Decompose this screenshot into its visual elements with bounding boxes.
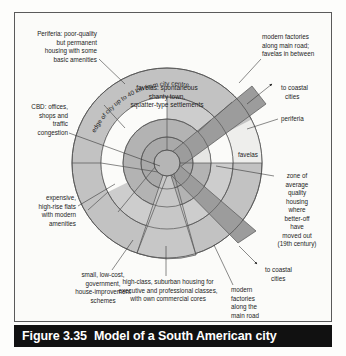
label-periferia-right: periferia: [281, 115, 304, 123]
label-periferia-top-left: Periferia: poor-quality but permanent ho…: [37, 30, 98, 63]
figure-container: edge of city up to 40 km from city centr…: [0, 0, 346, 356]
label-zoa-l5: where: [287, 206, 306, 213]
label-zoa-l1: zone of: [287, 172, 308, 179]
figure-number: Figure 3.35: [22, 329, 87, 343]
label-cbd-l4: congestion: [38, 129, 69, 137]
label-zoa-l2: average: [286, 181, 309, 189]
label-slc-l4: schemes: [90, 297, 115, 304]
label-slc-l1: small, low-cost,: [81, 271, 124, 278]
label-ehf-l4: amenities: [49, 220, 76, 227]
leader-modern-factories-bottom: [214, 245, 233, 285]
label-coastal-bot-l1: to coastal: [265, 266, 292, 273]
label-modern-factories-top: modern factories along main road; favela…: [262, 33, 315, 57]
label-hcs-l1: high-class, suburban housing for: [122, 278, 213, 286]
label-zoa-l8: moved out: [282, 232, 312, 239]
label-cbd: CBD: offices, shops and traffic congesti…: [31, 103, 68, 137]
label-cbd-l3: traffic: [53, 120, 68, 127]
label-favelas-inner-l3: squatter-type settlements: [131, 101, 205, 109]
label-zone-of-average-quality: zone of average quality housing where be…: [278, 172, 317, 248]
label-hcs-l2: executive and professional classes,: [118, 287, 217, 295]
label-high-class-suburban: high-class, suburban housing for executi…: [118, 278, 217, 302]
label-ehf-l1: expensive,: [46, 194, 76, 202]
label-ehf-l3: with modern: [41, 211, 77, 218]
leader-periferia-top-left: [99, 59, 125, 84]
label-to-coastal-cities-top: to coastal cities: [281, 84, 308, 100]
arrow-to-coastal-cities-bottom: [239, 246, 257, 264]
label-slc-l2: government,: [85, 280, 120, 288]
label-hcs-l3: with own commercial cores: [129, 295, 206, 302]
label-favelas-right: favelas: [238, 151, 258, 158]
label-mf-bot-l3: along the: [231, 303, 257, 311]
label-zoa-l6: better-off: [284, 215, 309, 222]
label-mf-bot-l1: modern: [231, 286, 253, 293]
label-zoa-l4: housing: [286, 198, 309, 206]
label-mf-top-l1: modern factories: [262, 33, 309, 40]
label-cbd-l1: CBD: offices,: [31, 103, 68, 110]
label-coastal-top-l2: cities: [285, 93, 299, 100]
label-mf-bot-l2: factories: [231, 295, 255, 302]
label-zoa-l3: quality: [288, 189, 307, 197]
label-cbd-l2: shops and: [39, 112, 69, 120]
south-american-city-model-diagram: edge of city up to 40 km from city centr…: [0, 0, 346, 356]
label-zoa-l7: have: [290, 223, 304, 230]
label-ehf-l2: high-rise flats: [39, 203, 76, 211]
figure-caption-bar: Figure 3.35 Model of a South American ci…: [14, 325, 332, 347]
label-periferia-l3: housing with some: [45, 47, 98, 55]
label-expensive-high-rise-flats: expensive, high-rise flats with modern a…: [39, 194, 77, 227]
figure-title: Model of a South American city: [94, 329, 277, 343]
label-periferia-l2: but permanent: [56, 39, 97, 47]
label-mf-top-l3: favelas in between: [262, 50, 315, 57]
label-mf-bot-l4: main road: [231, 312, 259, 319]
label-coastal-bot-l2: cities: [271, 275, 285, 282]
label-coastal-top-l1: to coastal: [281, 84, 308, 91]
label-mf-top-l2: along main road;: [262, 42, 309, 50]
label-periferia-l1: Periferia: poor-quality: [37, 30, 98, 38]
label-to-coastal-cities-bottom: to coastal cities: [265, 266, 292, 282]
leader-modern-factories-top: [239, 59, 261, 83]
label-periferia-l4: basic amenities: [54, 56, 97, 63]
label-favelas-inner-l1: favelas: spontaneous: [136, 84, 198, 92]
label-zoa-l9: (19th century): [278, 240, 317, 248]
label-modern-factories-bottom: modern factories along the main road: [231, 286, 259, 319]
label-favelas-inner-l2: shanty town,: [149, 93, 186, 101]
